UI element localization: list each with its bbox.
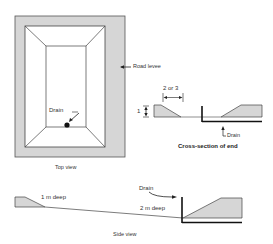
top-view-plan: [15, 16, 131, 157]
height-dimension-label: 1: [137, 108, 140, 114]
top-view-drain-label: Drain: [49, 107, 63, 113]
diagram-canvas: [0, 0, 273, 244]
shallow-depth-label: 1 m deep: [41, 194, 66, 200]
road-levee-label: Road levee: [133, 64, 161, 70]
arrow-right-icon: [172, 195, 177, 199]
width-dimension-label: 2 or 3: [163, 85, 178, 91]
side-view-caption: Side view: [113, 232, 137, 238]
side-view-drain-label: Drain: [139, 185, 153, 191]
drain-dot-icon: [64, 122, 69, 127]
cross-section-caption: Cross-section of end: [178, 143, 238, 149]
top-view-caption: Top view: [55, 165, 76, 171]
arrow-up-icon: [221, 126, 224, 130]
cross-section-drawing: [143, 93, 262, 136]
cross-section-drain-label: Drain: [227, 133, 240, 139]
deep-depth-label: 2 m deep: [140, 205, 165, 211]
pond-floor: [46, 46, 86, 127]
